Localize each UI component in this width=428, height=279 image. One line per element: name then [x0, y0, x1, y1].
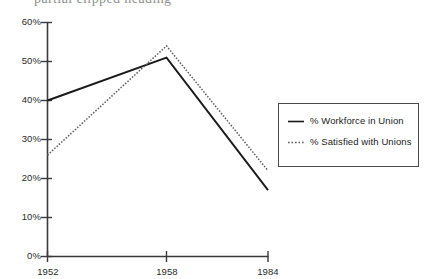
y-tick-label-20: 20% — [7, 172, 41, 183]
y-tick-label-30: 30% — [7, 133, 41, 144]
series-line-workforce-in-union — [48, 58, 269, 191]
chart-figure: partial clipped heading 60% 50% — [0, 0, 428, 279]
solid-line-marker — [288, 116, 304, 127]
y-tick-label-10: 10% — [7, 211, 41, 222]
dotted-line-marker — [288, 137, 304, 148]
x-tick-label-1984: 1984 — [238, 266, 298, 277]
series-line-satisfied-with-unions — [48, 46, 269, 171]
y-axis-ticks — [41, 23, 52, 257]
y-tick-label-0: 0% — [7, 250, 41, 261]
x-tick-label-1958: 1958 — [137, 266, 197, 277]
y-tick-label-50: 50% — [7, 55, 41, 66]
legend-label-satisfied-with-unions: % Satisfied with Unions — [310, 136, 412, 148]
y-tick-label-40: 40% — [7, 94, 41, 105]
x-tick-label-1952: 1952 — [18, 266, 78, 277]
legend-item-workforce-in-union: % Workforce in Union — [288, 115, 404, 127]
legend-label-workforce-in-union: % Workforce in Union — [310, 115, 404, 127]
y-tick-label-60: 60% — [7, 16, 41, 27]
chart-legend: % Workforce in Union % Satisfied with Un… — [278, 103, 419, 167]
legend-item-satisfied-with-unions: % Satisfied with Unions — [288, 136, 412, 148]
